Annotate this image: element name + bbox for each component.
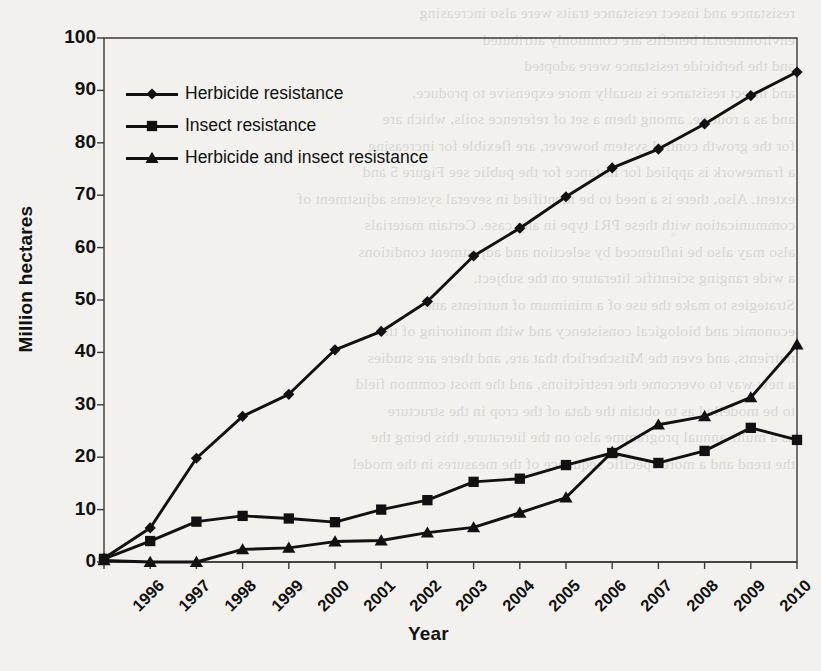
chart-legend: Herbicide resistanceInsect resistanceHer… (126, 78, 428, 174)
marker-square (376, 504, 386, 514)
marker-square (468, 477, 478, 487)
marker-diamond (791, 66, 802, 77)
marker-square (422, 495, 432, 505)
legend-marker-triangle-icon (126, 148, 178, 168)
legend-label: Herbicide resistance (185, 85, 344, 103)
marker-triangle (790, 338, 803, 349)
marker-square (561, 460, 571, 470)
chart-figure: Million hectares Year 100908070605040302… (0, 0, 821, 671)
marker-square (237, 511, 247, 521)
legend-marker-square-icon (126, 116, 178, 136)
marker-square (191, 517, 201, 527)
marker-square (792, 435, 802, 445)
legend-item-square: Insect resistance (126, 110, 428, 142)
marker-square (746, 423, 756, 433)
legend-marker-diamond-icon (126, 84, 178, 104)
marker-square (330, 517, 340, 527)
legend-label: Insect resistance (185, 117, 316, 135)
marker-square (699, 446, 709, 456)
marker-square (145, 536, 155, 546)
marker-diamond (653, 143, 664, 154)
legend-item-diamond: Herbicide resistance (126, 78, 428, 110)
marker-square (653, 458, 663, 468)
marker-square (515, 474, 525, 484)
legend-label: Herbicide and insect resistance (185, 149, 428, 167)
marker-square (284, 513, 294, 523)
series-insect-resistance (99, 423, 802, 564)
legend-item-triangle: Herbicide and insect resistance (126, 142, 428, 174)
